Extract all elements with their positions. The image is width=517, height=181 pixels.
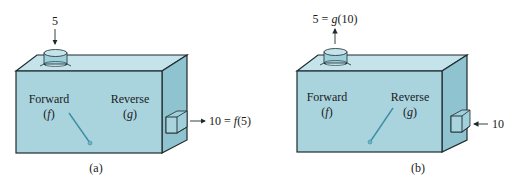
reverse-symbol: (g) (403, 105, 417, 119)
box-top-face (16, 55, 187, 71)
forward-label: Forward (29, 92, 70, 106)
function-machine-diagram: 5 10 = f(5) Forward (f) Reverse (g) (a) (0, 0, 517, 181)
forward-symbol: (f) (43, 107, 54, 121)
forward-symbol: (f) (321, 105, 332, 119)
panel-caption: (b) (411, 161, 425, 175)
input-pipe-top (40, 50, 71, 67)
box-side-face (162, 55, 187, 153)
side-value-label: 10 = f(5) (209, 114, 251, 128)
top-value-label: 5 (52, 14, 58, 28)
reverse-label: Reverse (391, 90, 430, 104)
output-pipe-top (320, 49, 351, 66)
dial-pivot (368, 140, 372, 144)
dial-pivot (88, 141, 92, 145)
box-top-face (297, 55, 467, 71)
panel-caption: (a) (89, 161, 102, 175)
reverse-symbol: (g) (123, 107, 137, 121)
top-value-label: 5 = g(10) (313, 12, 358, 26)
box-side-face (442, 55, 467, 152)
side-value-label: 10 (492, 117, 504, 131)
panel-a: 5 10 = f(5) Forward (f) Reverse (g) (a) (16, 14, 251, 175)
forward-label: Forward (307, 90, 348, 104)
reverse-label: Reverse (111, 92, 150, 106)
panel-b: 5 = g(10) 10 Forward (f) Reverse (g) (b) (297, 12, 504, 175)
